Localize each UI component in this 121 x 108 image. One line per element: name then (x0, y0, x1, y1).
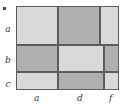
mosaic-plot-figure: abc adf (0, 0, 121, 108)
mosaic-cell (100, 6, 119, 45)
mosaic-row (16, 45, 119, 72)
mosaic-row (16, 72, 119, 90)
x-axis-label-f: f (105, 93, 117, 103)
x-axis-label-a: a (30, 93, 42, 103)
y-axis-label-b: b (0, 56, 16, 65)
mosaic-plot-area (16, 6, 119, 90)
mosaic-cell (58, 72, 104, 90)
mosaic-cell (16, 72, 58, 90)
x-axis-labels: adf (16, 93, 119, 107)
mosaic-cell (104, 72, 119, 90)
y-axis-label-c: c (0, 80, 16, 89)
y-axis-label-a: a (0, 25, 16, 34)
mosaic-cell (104, 45, 119, 72)
mosaic-row (16, 6, 119, 45)
mosaic-cell (16, 45, 58, 72)
x-axis-label-d: d (74, 93, 86, 103)
mosaic-cell (16, 6, 58, 45)
mosaic-cell (58, 6, 101, 45)
mosaic-cell (58, 45, 104, 72)
y-axis-labels: abc (0, 6, 16, 90)
